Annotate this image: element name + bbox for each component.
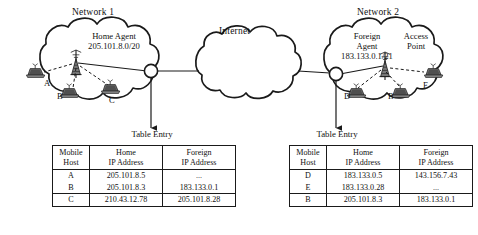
access-point-label-line2: Point	[396, 42, 436, 51]
host-e-label: E	[423, 81, 428, 90]
hdr-line2: IP Address	[403, 158, 469, 168]
foreign-agent-ip: 183.133.0.1/21	[325, 52, 409, 61]
cell-host: A	[53, 170, 90, 182]
home-agent-table: Mobile Host Home IP Address Foreign IP A…	[52, 145, 236, 207]
cell-host: B	[290, 194, 327, 207]
column-header-home-ip: Home IP Address	[90, 146, 163, 170]
hdr-line1: Mobile	[293, 148, 323, 158]
cell-host: B	[53, 182, 90, 194]
cell-host: D	[290, 170, 327, 182]
hdr-line2: Host	[56, 158, 86, 168]
table-row: B 205.101.8.3 183.133.0.1	[53, 182, 236, 194]
cell-home-ip: 183.133.0.5	[327, 170, 400, 182]
hdr-line1: Foreign	[403, 148, 469, 158]
diagram-canvas: Network 1 Home Agent 205.101.8.0/20 A B …	[0, 0, 478, 235]
hdr-line2: IP Address	[93, 158, 159, 168]
cell-home-ip: 205.101.8.5	[90, 170, 163, 182]
column-header-foreign-ip: Foreign IP Address	[400, 146, 473, 170]
host-b-roaming-label: B	[388, 92, 394, 101]
network-1-title: Network 1	[72, 8, 114, 18]
cell-host: C	[53, 194, 90, 207]
table-header-row: Mobile Host Home IP Address Foreign IP A…	[290, 146, 473, 170]
access-point-label-line1: Access	[396, 32, 436, 41]
internet-cloud	[196, 26, 301, 99]
cell-home-ip: 205.101.8.3	[90, 182, 163, 194]
hdr-line2: IP Address	[166, 158, 232, 168]
cell-foreign-ip: 205.101.8.28	[163, 194, 236, 207]
internet-label: Internet	[219, 27, 250, 37]
cell-host: E	[290, 182, 327, 194]
hdr-line1: Home	[93, 148, 159, 158]
hdr-line1: Home	[330, 148, 396, 158]
wan-link-right	[298, 71, 330, 73]
table-header-row: Mobile Host Home IP Address Foreign IP A…	[53, 146, 236, 170]
cell-home-ip: 210.43.12.78	[90, 194, 163, 207]
host-a-label: A	[44, 79, 50, 88]
host-b-label: B	[57, 92, 63, 101]
table-row: D 183.133.0.5 143.156.7.43	[290, 170, 473, 182]
foreign-agent-table: Mobile Host Home IP Address Foreign IP A…	[289, 145, 473, 207]
foreign-agent-label-line1: Foreign	[345, 32, 389, 41]
home-table-caption: Table Entry	[123, 130, 181, 139]
table-row: E 183.133.0.28 ...	[290, 182, 473, 194]
cell-home-ip: 205.101.8.3	[327, 194, 400, 207]
home-router-node	[144, 64, 157, 77]
table-row: B 205.101.8.3 183.133.0.1	[290, 194, 473, 207]
cell-foreign-ip: ...	[400, 182, 473, 194]
cell-foreign-ip: 183.133.0.1	[163, 182, 236, 194]
network-2-title: Network 2	[357, 8, 399, 18]
home-agent-label: Home Agent	[78, 32, 150, 41]
cell-home-ip: 183.133.0.28	[327, 182, 400, 194]
host-d-label: D	[344, 92, 350, 101]
column-header-home-ip: Home IP Address	[327, 146, 400, 170]
column-header-mobile-host: Mobile Host	[53, 146, 90, 170]
foreign-table-caption: Table Entry	[308, 130, 366, 139]
cell-foreign-ip: ...	[163, 170, 236, 182]
cell-foreign-ip: 183.133.0.1	[400, 194, 473, 207]
foreign-agent-label-line2: Agent	[345, 42, 389, 51]
network-1-cloud	[40, 17, 159, 99]
column-header-foreign-ip: Foreign IP Address	[163, 146, 236, 170]
hdr-line2: IP Address	[330, 158, 396, 168]
hdr-line1: Mobile	[56, 148, 86, 158]
foreign-router-node	[329, 67, 342, 80]
hdr-line2: Host	[293, 158, 323, 168]
cell-foreign-ip: 143.156.7.43	[400, 170, 473, 182]
home-agent-ip: 205.101.8.0/20	[70, 42, 158, 51]
table-row: A 205.101.8.5 ...	[53, 170, 236, 182]
table-row: C 210.43.12.78 205.101.8.28	[53, 194, 236, 207]
host-c-label: C	[109, 96, 115, 105]
hdr-line1: Foreign	[166, 148, 232, 158]
column-header-mobile-host: Mobile Host	[290, 146, 327, 170]
